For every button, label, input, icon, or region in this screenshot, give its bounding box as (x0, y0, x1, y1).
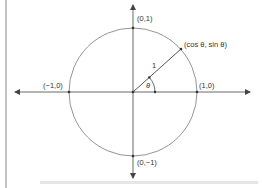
unit-circle-diagram: (0,1) (0,−1) (−1,0) (1,0) (cos θ, sin θ)… (0, 0, 262, 188)
arc-start-point (154, 91, 156, 93)
origin-point (132, 91, 135, 94)
arc-end-point (148, 76, 150, 78)
point-on-circle (180, 48, 183, 51)
point-left (68, 91, 71, 94)
label-circle-point: (cos θ, sin θ) (184, 41, 227, 49)
label-radius: 1 (152, 62, 156, 70)
point-top (132, 27, 135, 30)
point-bottom (132, 155, 135, 158)
radius-line (133, 49, 181, 92)
label-bottom-point: (0,−1) (137, 159, 157, 167)
diagram-canvas (0, 0, 262, 188)
point-right (196, 91, 199, 94)
label-angle: θ (146, 82, 150, 90)
footer-band (40, 181, 258, 184)
label-top-point: (0,1) (137, 15, 152, 23)
label-right-point: (1,0) (199, 82, 214, 90)
angle-arc (149, 77, 155, 92)
label-left-point: (−1,0) (43, 82, 63, 90)
